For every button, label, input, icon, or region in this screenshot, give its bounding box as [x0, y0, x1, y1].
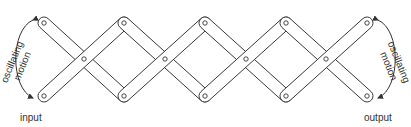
pivot-joint-icon: [365, 21, 369, 25]
pivot-joint-icon: [324, 57, 328, 61]
pivot-joint-icon: [122, 94, 126, 98]
pivot-joint-icon: [284, 21, 288, 25]
pivot-joint-icon: [365, 94, 369, 98]
pivot-joint-icon: [163, 57, 167, 61]
pivot-joint-icon: [203, 21, 207, 25]
output-label: output: [364, 112, 392, 123]
linkage-diagram: [0, 0, 411, 127]
input-label: input: [20, 112, 42, 123]
pivot-joint-icon: [42, 94, 46, 98]
pivot-joint-icon: [82, 57, 86, 61]
pivot-joint-icon: [203, 94, 207, 98]
pivot-joint-icon: [42, 21, 46, 25]
pivot-joint-icon: [284, 94, 288, 98]
pivot-joint-icon: [244, 57, 248, 61]
pivot-joint-icon: [122, 21, 126, 25]
